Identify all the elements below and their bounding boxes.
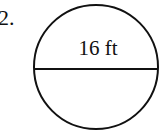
diameter-label: 16 ft [66, 37, 130, 59]
circle-outline [34, 5, 158, 129]
circle-diagram [0, 0, 164, 135]
